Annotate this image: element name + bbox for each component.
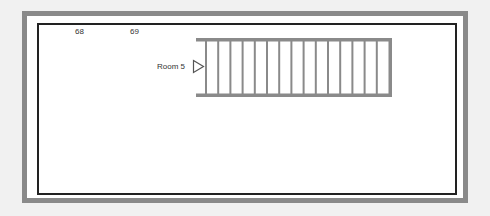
stair-tread [364, 41, 366, 94]
stair-tread [290, 41, 292, 94]
stair-tread [315, 41, 317, 94]
stair-tread [254, 41, 256, 94]
stair-tread [266, 41, 268, 94]
stair-tread [229, 41, 231, 94]
stair-tread [205, 41, 207, 94]
stair-tread [303, 41, 305, 94]
stair-tread [351, 41, 353, 94]
room-5-label[interactable]: Room 5 [157, 62, 185, 72]
stair-tread [217, 41, 219, 94]
stair-tread [339, 41, 341, 94]
stair-tread [242, 41, 244, 94]
stair-tread [327, 41, 329, 94]
stair-tread [376, 41, 378, 94]
staircase [196, 38, 392, 97]
room-number-69[interactable]: 69 [130, 27, 139, 37]
stair-tread [278, 41, 280, 94]
room-number-68[interactable]: 68 [75, 27, 84, 37]
